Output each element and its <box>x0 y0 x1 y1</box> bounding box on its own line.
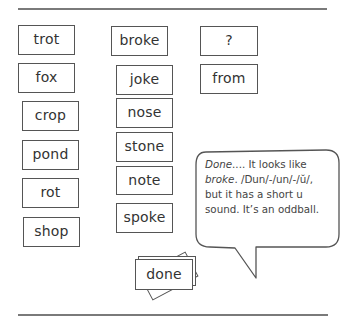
word-label: done <box>146 266 182 282</box>
bubble-line-1: .... It looks like <box>232 158 306 170</box>
bubble-line-3: but it has a short u <box>205 187 335 202</box>
word-card-done[interactable]: done <box>135 259 193 290</box>
bubble-line-4: sound. It’s an oddball. <box>205 202 335 217</box>
lead-word: Done <box>205 158 232 170</box>
example-word: broke <box>205 173 234 185</box>
bubble-line-2: . /Dun/-/un/-/ŭ/, <box>234 173 313 185</box>
speech-bubble-text: Done.... It looks like broke. /Dun/-/un/… <box>205 157 335 217</box>
